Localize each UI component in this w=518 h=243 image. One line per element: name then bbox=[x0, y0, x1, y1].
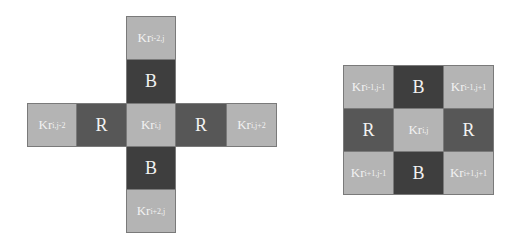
cell-blue-r2c1: B bbox=[393, 151, 444, 195]
cell-kr-bottom2: Kri+2,j bbox=[126, 189, 176, 233]
cell-kr-r1c1: Kri,j bbox=[393, 108, 444, 152]
cell-kr-right2: Kri,j+2 bbox=[226, 103, 277, 147]
cell-red-left1: R bbox=[76, 103, 127, 147]
cell-kr-top2: Kri-2,j bbox=[126, 16, 176, 60]
cell-blue-bottom1: B bbox=[126, 146, 176, 190]
cell-red-r1c0: R bbox=[343, 108, 394, 152]
cell-kr-left2: Kri,j-2 bbox=[27, 103, 77, 147]
cell-blue-r0c1: B bbox=[393, 65, 444, 109]
cell-red-right1: R bbox=[175, 103, 227, 147]
cell-red-r1c2: R bbox=[443, 108, 494, 152]
cell-kr-center: Kri,j bbox=[126, 103, 176, 147]
cell-kr-r2c0: Kri+1,j-1 bbox=[343, 151, 394, 195]
cell-kr-r2c2: Kri+1,j+1 bbox=[443, 151, 494, 195]
cell-kr-r0c0: Kri-1,j-1 bbox=[343, 65, 394, 109]
cell-kr-r0c2: Kri-1,j+1 bbox=[443, 65, 494, 109]
cell-blue-top1: B bbox=[126, 59, 176, 104]
